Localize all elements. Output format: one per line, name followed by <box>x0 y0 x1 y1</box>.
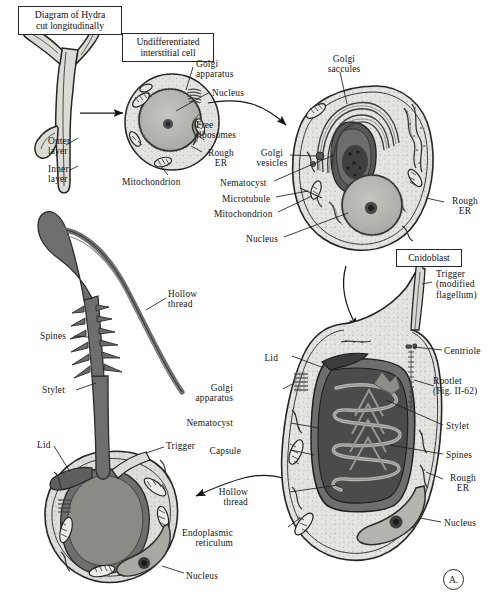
label-lid-2: Lid <box>258 353 278 363</box>
label-endoplasmic-reticulum: Endoplasmic reticulum <box>173 528 233 549</box>
label-nucleus: Nucleus <box>212 88 244 98</box>
label-rough-er-2: Rough ER <box>448 196 482 217</box>
label-outer-layer: Outer layer <box>48 136 70 157</box>
label-rootlet: Rootlet (Fig. II-62) <box>433 376 477 397</box>
label-centriole: Centriole <box>444 346 481 356</box>
label-spines: Spines <box>40 331 66 341</box>
label-stylet-2: Stylet <box>446 421 469 431</box>
label-hollow-thread-2: Hollow thread <box>208 487 248 508</box>
label-nucleus-4: Nucleus <box>186 571 218 581</box>
label-golgi-saccules: Golgi saccules <box>320 54 368 75</box>
label-rough-er: Rough ER <box>204 148 238 169</box>
label-inner-layer: Inner layer <box>48 164 69 185</box>
label-nematocyst-2: Nematocyst <box>173 418 233 428</box>
label-nematocyst: Nematocyst <box>220 178 267 188</box>
illustration-layer <box>0 0 491 610</box>
label-nucleus-2: Nucleus <box>246 234 278 244</box>
arrow-cnidoblast-to-mature <box>344 266 357 327</box>
label-golgi-apparatus: Golgi apparatus <box>196 59 234 80</box>
label-golgi-apparatus-2: Golgi apparatus <box>181 383 233 404</box>
label-free-ribosomes: Free ribosomes <box>196 120 236 141</box>
label-trigger-flagellum: Trigger (modified flagellum) <box>436 269 477 300</box>
hydra-title-box: Diagram of Hydra cut longitudinally <box>18 6 122 35</box>
cnidoblast-title-box: Cnidoblast <box>396 249 462 267</box>
panel-mark: A. <box>443 569 464 590</box>
label-stylet: Stylet <box>42 385 65 395</box>
label-lid: Lid <box>37 440 51 450</box>
label-mitochondrion: Mitochondrion <box>122 177 181 187</box>
label-capsule: Capsule <box>197 446 241 456</box>
developing-cnidoblast <box>274 72 444 250</box>
label-rough-er-3: Rough ER <box>446 473 480 494</box>
label-nucleus-3: Nucleus <box>444 518 476 528</box>
mature-cnidoblast <box>282 258 443 561</box>
figure-canvas: Diagram of Hydra cut longitudinally Undi… <box>0 0 491 610</box>
label-microtubule: Microtubule <box>222 194 270 204</box>
label-trigger: Trigger <box>166 441 195 451</box>
discharged-nematocyst <box>38 212 184 583</box>
label-golgi-vesicles: Golgi vesicles <box>252 148 292 169</box>
label-hollow-thread: Hollow thread <box>168 289 197 310</box>
interstitial-title-box: Undifferentiated interstitial cell <box>122 33 214 62</box>
label-spines-2: Spines <box>446 450 472 460</box>
label-mitochondrion-2: Mitochondrion <box>214 209 273 219</box>
